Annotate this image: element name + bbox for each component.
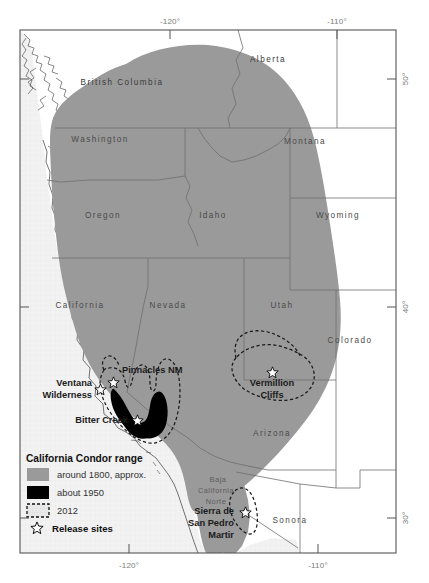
- axis-label-bottom-110: -110°: [308, 561, 328, 570]
- label-sonora: Sonora: [272, 516, 307, 525]
- label-ventana-line2: Wilderness: [42, 390, 92, 400]
- axis-label-right-40: 40°: [401, 301, 410, 314]
- condor-range-map: British Columbia Alberta Washington Mont…: [0, 0, 429, 583]
- axis-label-right-50: 50°: [401, 73, 410, 86]
- label-ventana-line1: Ventana: [56, 378, 92, 388]
- label-baja-line2: California: [198, 486, 235, 495]
- legend-label-range-1950: about 1950: [57, 487, 104, 498]
- label-vermillion-line1: Vermillion: [250, 378, 295, 388]
- label-nevada: Nevada: [150, 301, 187, 310]
- label-sierra-line3: Martir: [208, 530, 234, 540]
- axis-label-top-110: -110°: [327, 17, 347, 26]
- label-washington: Washington: [71, 135, 128, 144]
- label-pinnacles-nm: Pinnacles NM: [122, 365, 183, 375]
- label-oregon: Oregon: [85, 211, 121, 220]
- label-colorado: Colorado: [328, 336, 373, 345]
- label-sierra-line2: San Pedro: [188, 518, 234, 528]
- label-vermillion-line2: Cliffs: [260, 390, 283, 400]
- label-arizona: Arizona: [253, 429, 291, 438]
- legend-label-release-sites: Release sites: [52, 523, 113, 534]
- legend-swatch-range-1950: [27, 486, 49, 499]
- label-baja-line1: Baja: [210, 475, 227, 484]
- axis-label-bottom-120: -120°: [119, 561, 139, 570]
- legend-title: California Condor range: [26, 453, 143, 464]
- label-alberta: Alberta: [250, 55, 286, 64]
- label-sierra-line1: Sierra de: [194, 506, 234, 516]
- label-bitter-creek: Bitter Creek: [75, 415, 129, 425]
- label-california: California: [55, 301, 104, 310]
- legend-label-range-1800: around 1800, approx.: [57, 469, 146, 480]
- map-background-layer: British Columbia Alberta Washington Mont…: [20, 30, 396, 553]
- axis-label-top-120: -120°: [160, 17, 180, 26]
- legend-swatch-range-2012: [27, 504, 49, 517]
- label-montana: Montana: [284, 137, 326, 146]
- map-canvas: British Columbia Alberta Washington Mont…: [0, 0, 429, 583]
- legend-label-range-2012: 2012: [57, 505, 78, 516]
- label-utah: Utah: [270, 301, 293, 310]
- label-wyoming: Wyoming: [316, 211, 360, 220]
- label-idaho: Idaho: [199, 211, 227, 220]
- axis-label-right-30: 30°: [401, 512, 410, 525]
- label-baja-line3: Norte: [206, 497, 227, 506]
- legend-swatch-range-1800: [27, 468, 49, 481]
- label-british-columbia: British Columbia: [81, 78, 164, 87]
